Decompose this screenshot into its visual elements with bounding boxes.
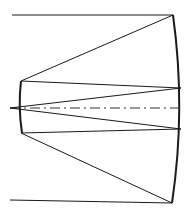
- top-reflected-ray: [21, 15, 173, 81]
- bottom-secondary-ray: [21, 129, 181, 133]
- optical-diagram: [0, 0, 190, 221]
- primary-mirror: [172, 15, 179, 203]
- top-secondary-ray: [21, 81, 181, 88]
- bottom-converging-ray: [10, 108, 181, 129]
- top-converging-ray: [10, 88, 181, 108]
- bottom-reflected-ray: [21, 133, 172, 203]
- bottom-incoming-ray: [10, 200, 172, 203]
